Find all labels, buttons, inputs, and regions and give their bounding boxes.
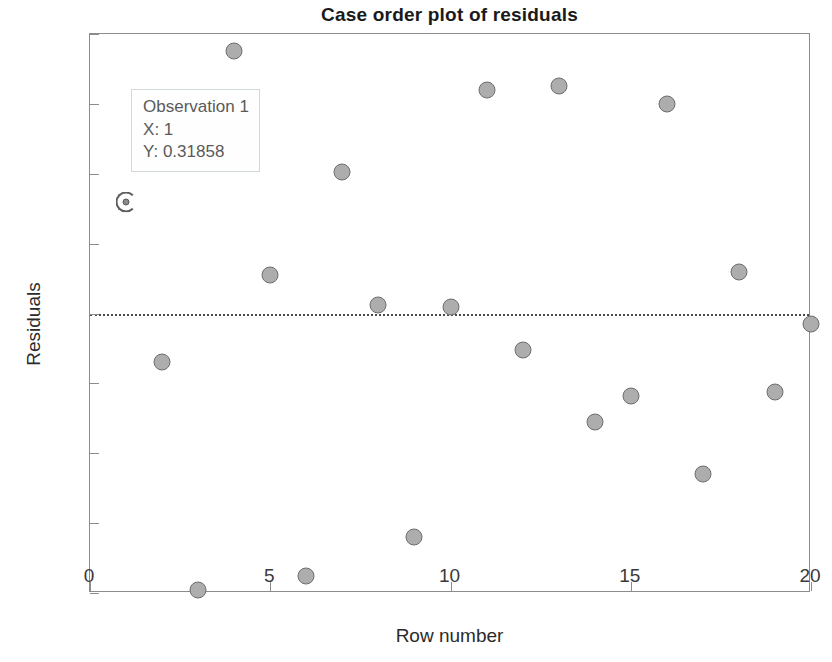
- y-axis-title: Residuals: [23, 204, 45, 444]
- plot-area[interactable]: Observation 1 X: 1 Y: 0.31858: [89, 33, 810, 592]
- scatter-point[interactable]: [550, 78, 567, 95]
- scatter-point[interactable]: [370, 296, 387, 313]
- x-tick-label: 0: [59, 566, 119, 585]
- data-tip-tooltip[interactable]: Observation 1 X: 1 Y: 0.31858: [131, 89, 260, 172]
- scatter-point[interactable]: [406, 529, 423, 546]
- x-tick-label: 20: [780, 566, 832, 585]
- scatter-point[interactable]: [334, 164, 351, 181]
- x-tick-label: 10: [420, 566, 480, 585]
- y-tick: [90, 314, 99, 315]
- y-tick: [90, 244, 99, 245]
- figure-canvas: Case order plot of residuals Observation…: [0, 0, 832, 662]
- scatter-point[interactable]: [154, 354, 171, 371]
- y-tick: [90, 453, 99, 454]
- scatter-point[interactable]: [658, 95, 675, 112]
- scatter-point[interactable]: [442, 298, 459, 315]
- x-tick-label: 5: [239, 566, 299, 585]
- scatter-point[interactable]: [730, 263, 747, 280]
- scatter-point[interactable]: [622, 387, 639, 404]
- y-tick: [90, 383, 99, 384]
- y-tick: [90, 593, 99, 594]
- scatter-point[interactable]: [694, 466, 711, 483]
- scatter-point[interactable]: [226, 43, 243, 60]
- scatter-point[interactable]: [803, 315, 820, 332]
- y-tick: [90, 34, 99, 35]
- y-tick: [90, 174, 99, 175]
- x-axis-title: Row number: [89, 625, 810, 647]
- scatter-point[interactable]: [262, 267, 279, 284]
- data-tip-x: X: 1: [143, 119, 249, 142]
- scatter-point[interactable]: [478, 81, 495, 98]
- y-tick: [90, 104, 99, 105]
- data-tip-observation: Observation 1: [143, 96, 249, 119]
- x-tick-label: 15: [600, 566, 660, 585]
- scatter-point[interactable]: [766, 384, 783, 401]
- scatter-point[interactable]: [514, 342, 531, 359]
- scatter-point-selected[interactable]: [123, 199, 130, 206]
- scatter-point[interactable]: [586, 413, 603, 430]
- data-tip-y: Y: 0.31858: [143, 141, 249, 164]
- scatter-point[interactable]: [298, 567, 315, 584]
- y-tick: [90, 523, 99, 524]
- page-title: Case order plot of residuals: [89, 4, 810, 26]
- scatter-point[interactable]: [190, 581, 207, 598]
